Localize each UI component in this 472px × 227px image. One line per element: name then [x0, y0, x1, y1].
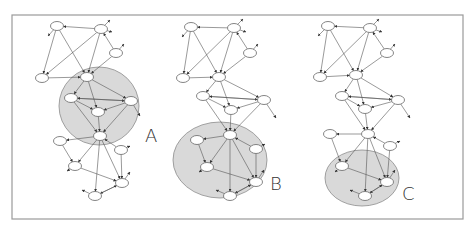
edge — [334, 26, 363, 27]
graph-node — [81, 73, 94, 82]
edge — [206, 81, 215, 92]
graph-node — [250, 178, 263, 187]
edge — [208, 99, 225, 108]
network-diagram: ABC — [0, 0, 472, 227]
edge — [357, 79, 364, 104]
graph-node — [314, 73, 327, 82]
graph-node — [336, 162, 349, 171]
edge — [330, 30, 353, 71]
graph-node — [177, 74, 190, 83]
graph-node — [69, 162, 82, 171]
graph-node — [54, 137, 67, 146]
edge — [321, 30, 328, 72]
edge — [59, 30, 84, 73]
edge — [121, 154, 122, 178]
edge — [345, 79, 354, 92]
panel-label-a: A — [145, 125, 157, 146]
graph-node — [392, 96, 405, 105]
graph-node — [185, 23, 198, 32]
panel-c: C — [314, 19, 415, 206]
edge — [221, 81, 230, 105]
edge — [371, 104, 394, 130]
graph-node — [364, 24, 377, 33]
graph-node — [244, 49, 257, 58]
edge — [371, 102, 392, 108]
graph-node — [201, 163, 214, 172]
graph-node — [322, 22, 335, 31]
edge — [187, 32, 231, 75]
edge — [347, 99, 360, 106]
panel-label-b: B — [270, 173, 282, 194]
graph-node — [110, 49, 123, 58]
edge — [224, 80, 259, 98]
graph-node — [224, 131, 237, 140]
graph-node — [228, 24, 241, 33]
graph-node — [191, 136, 204, 145]
graph-node — [250, 145, 263, 154]
panel-label-c: C — [402, 183, 415, 204]
graph-node — [224, 192, 237, 201]
panel-b: B — [173, 19, 282, 201]
graph-node — [213, 73, 226, 82]
graph-node — [94, 132, 107, 141]
edge — [189, 77, 212, 78]
edge — [373, 137, 385, 143]
graph-node — [225, 106, 238, 115]
graph-node — [115, 146, 128, 155]
graph-node — [381, 178, 394, 187]
graph-node — [359, 105, 372, 114]
graph-node — [381, 49, 394, 58]
edge — [361, 78, 393, 97]
graph-node — [92, 108, 105, 117]
edge — [95, 140, 99, 191]
graph-node — [95, 25, 108, 34]
graph-node — [359, 192, 372, 201]
highlight-region-b — [173, 122, 267, 198]
edge — [100, 186, 116, 194]
panel-a: A — [36, 20, 158, 201]
edge — [361, 56, 383, 72]
graph-node — [350, 71, 363, 80]
graph-node — [89, 192, 102, 201]
graph-node — [197, 92, 210, 101]
graph-node — [384, 142, 397, 151]
edge — [62, 145, 72, 162]
edge — [63, 26, 94, 28]
graph-node — [51, 22, 64, 31]
graph-node — [336, 92, 349, 101]
graph-node — [324, 130, 337, 139]
edge — [197, 27, 227, 28]
edge — [223, 56, 245, 73]
edge — [209, 96, 257, 99]
edge — [357, 32, 368, 70]
edge — [193, 31, 216, 73]
graph-node — [362, 130, 375, 139]
graph-node — [258, 96, 271, 105]
edge — [366, 113, 368, 129]
graph-node — [65, 94, 78, 103]
edge — [324, 32, 366, 74]
graph-node — [36, 74, 49, 83]
edge — [184, 31, 191, 73]
edge — [104, 33, 114, 49]
edge — [237, 102, 258, 108]
edge — [220, 32, 232, 72]
edge — [348, 96, 391, 99]
edge — [81, 168, 116, 181]
edge — [326, 75, 349, 76]
edge — [373, 32, 384, 49]
graph-node — [116, 179, 129, 188]
edge — [43, 30, 55, 73]
graph-node — [125, 97, 138, 106]
edge — [237, 32, 248, 49]
